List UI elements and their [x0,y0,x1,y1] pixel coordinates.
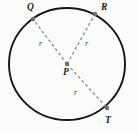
point-label-T: T [105,116,111,126]
point-marker-T [105,106,109,110]
point-label-R: R [101,3,107,13]
point-label-Q: Q [27,3,34,13]
radius-segment-PR [67,14,95,64]
point-label-P: P [63,68,69,78]
diagram-canvas [0,0,138,133]
circle-radii-diagram: Q R P T r r r [0,0,138,133]
radius-label-PQ: r [39,40,42,48]
radius-label-PT: r [74,89,77,97]
radius-segment-PT [67,64,107,108]
point-marker-Q [31,17,35,21]
point-marker-R [93,12,97,16]
radius-label-PR: r [85,40,88,48]
point-marker-P [65,62,69,66]
